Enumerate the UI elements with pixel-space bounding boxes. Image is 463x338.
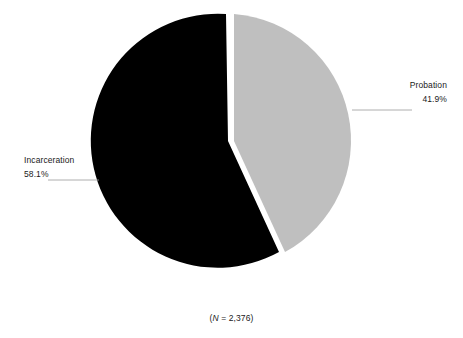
slice-label-probation: Probation 41.9%	[410, 78, 447, 106]
slice-label-probation-name: Probation	[410, 80, 447, 90]
slice-label-incarceration-name: Incarceration	[24, 155, 74, 165]
slice-label-incarceration-value: 58.1%	[24, 167, 74, 181]
sample-size-caption: (N = 2,376)	[0, 313, 463, 323]
caption-total: 2,376	[229, 313, 251, 323]
pie-chart-figure: Probation 41.9% Incarceration 58.1% (N =…	[0, 0, 463, 338]
caption-close-paren: )	[251, 313, 254, 323]
caption-equals: =	[219, 313, 229, 323]
slice-label-incarceration: Incarceration 58.1%	[24, 153, 74, 181]
slice-label-probation-value: 41.9%	[410, 92, 447, 106]
